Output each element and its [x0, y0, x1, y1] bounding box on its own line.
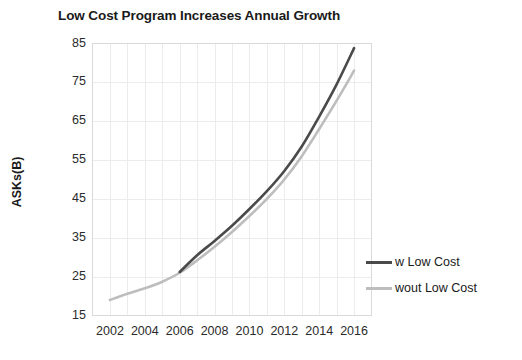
- x-axis-ticks: 20022004200620082010201220142016: [0, 0, 522, 360]
- x-axis-tick-label: 2016: [334, 324, 374, 338]
- chart-container: Low Cost Program Increases Annual Growth…: [0, 0, 522, 360]
- legend-color-swatch: [366, 261, 392, 264]
- legend-item[interactable]: w Low Cost: [366, 255, 477, 269]
- legend-label: wout Low Cost: [395, 281, 477, 295]
- chart-legend: w Low Costwout Low Cost: [366, 255, 477, 295]
- legend-item[interactable]: wout Low Cost: [366, 281, 477, 295]
- legend-label: w Low Cost: [395, 255, 460, 269]
- legend-color-swatch: [366, 287, 392, 290]
